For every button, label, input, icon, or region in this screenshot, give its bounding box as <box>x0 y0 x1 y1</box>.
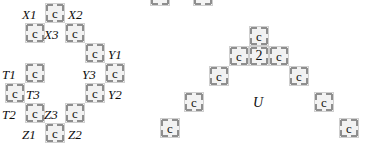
label-X2: X2 <box>68 8 82 21</box>
tile-glyph: c <box>270 47 288 65</box>
tile-glyph: c <box>290 67 308 85</box>
label-X1: X1 <box>22 8 36 21</box>
tile-crop-left <box>150 0 170 6</box>
tile-left-step-3[interactable]: c <box>160 118 180 138</box>
tile-right-step-1[interactable]: c <box>289 66 309 86</box>
tile-row2-right[interactable]: c <box>269 46 289 66</box>
tile-glyph: c <box>86 84 104 102</box>
tile-z3-right-c[interactable]: c <box>65 103 85 123</box>
tile-corner-tick <box>167 0 169 4</box>
tile-corner-tick <box>151 0 153 4</box>
tile-corner-tick <box>210 0 212 4</box>
tile-right-step-2[interactable]: c <box>314 92 334 112</box>
tile-left-step-2[interactable]: c <box>184 92 204 112</box>
label-Y1: Y1 <box>108 48 122 61</box>
label-Z3: Z3 <box>44 108 58 121</box>
tile-glyph: c <box>26 24 44 42</box>
tile-glyph: c <box>66 104 84 122</box>
label-Z1: Z1 <box>22 128 36 141</box>
label-Z2: Z2 <box>68 128 82 141</box>
tile-glyph: c <box>46 124 64 142</box>
label-Y3: Y3 <box>82 68 96 81</box>
tile-t2-c[interactable]: c <box>25 103 45 123</box>
tile-apex[interactable]: c <box>249 26 269 46</box>
label-Y2: Y2 <box>108 88 122 101</box>
tile-y1-c[interactable]: c <box>85 43 105 63</box>
tile-glyph: c <box>161 119 179 137</box>
tile-y2-c[interactable]: c <box>85 83 105 103</box>
tile-glyph: c <box>230 47 248 65</box>
tile-glyph: c <box>46 4 64 22</box>
tile-x-row2-left[interactable]: c <box>25 23 45 43</box>
tile-glyph: c <box>26 64 44 82</box>
tile-y3-c[interactable]: c <box>105 63 125 83</box>
tile-x-row2-right[interactable]: c <box>65 23 85 43</box>
tile-left-step-1[interactable]: c <box>209 66 229 86</box>
diagram-canvas: cccccccccccX1X2X3Y1Y3Y2Z3Z2Z1T2T3T1cc2cc… <box>0 0 369 158</box>
label-X3: X3 <box>44 28 58 41</box>
tile-glyph: c <box>106 64 124 82</box>
tile-glyph: c <box>250 27 268 45</box>
tile-glyph: 2 <box>250 47 268 65</box>
tile-glyph: c <box>66 24 84 42</box>
tile-corner-tick <box>194 0 196 4</box>
tile-t1-c[interactable]: c <box>25 63 45 83</box>
tile-glyph: c <box>340 119 358 137</box>
tile-x-top-c[interactable]: c <box>45 3 65 23</box>
tile-right-step-3[interactable]: c <box>339 118 359 138</box>
tile-glyph: c <box>210 67 228 85</box>
tile-glyph: c <box>6 84 24 102</box>
tile-t3-left-c[interactable]: c <box>5 83 25 103</box>
tile-glyph: c <box>315 93 333 111</box>
tile-row2-center[interactable]: 2 <box>249 46 269 66</box>
label-T2: T2 <box>2 108 16 121</box>
tile-glyph: c <box>26 104 44 122</box>
label-U: U <box>253 96 263 110</box>
label-T3: T3 <box>26 88 40 101</box>
tile-row2-left[interactable]: c <box>229 46 249 66</box>
label-T1: T1 <box>2 68 16 81</box>
tile-glyph: c <box>185 93 203 111</box>
tile-crop-right <box>193 0 213 6</box>
tile-z-bottom-c[interactable]: c <box>45 123 65 143</box>
tile-glyph: c <box>86 44 104 62</box>
